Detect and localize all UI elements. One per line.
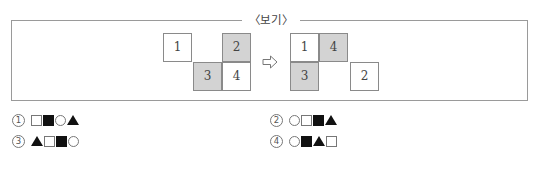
- option-4[interactable]: 4: [270, 134, 338, 148]
- circle-icon: [289, 115, 300, 126]
- triangle-icon: [67, 115, 79, 125]
- triangle-icon: [313, 136, 325, 146]
- option-number: 4: [270, 135, 283, 148]
- right-cell-2: 2: [350, 62, 379, 91]
- left-cell-1: 1: [163, 33, 192, 62]
- option-number: 1: [12, 114, 25, 127]
- right-cell-3: 3: [290, 62, 319, 91]
- left-cell-2: 2: [222, 33, 251, 62]
- empty-square-icon: [301, 115, 312, 126]
- empty-square-icon: [44, 136, 55, 147]
- triangle-icon: [31, 136, 43, 146]
- triangle-icon: [325, 115, 337, 125]
- filled-square-icon: [313, 115, 324, 126]
- empty-square-icon: [31, 115, 42, 126]
- circle-icon: [289, 136, 300, 147]
- option-number: 2: [270, 114, 283, 127]
- option-1[interactable]: 1: [12, 113, 80, 127]
- right-cell-4: 4: [319, 33, 348, 62]
- empty-square-icon: [326, 136, 337, 147]
- option-number: 3: [12, 135, 25, 148]
- filled-square-icon: [301, 136, 312, 147]
- example-box-title: 〈보기〉: [242, 12, 300, 28]
- option-2[interactable]: 2: [270, 113, 338, 127]
- filled-square-icon: [43, 115, 54, 126]
- right-arrow-icon: [262, 55, 278, 69]
- left-cell-3: 3: [193, 62, 222, 91]
- circle-icon: [68, 136, 79, 147]
- option-3[interactable]: 3: [12, 134, 80, 148]
- left-cell-4: 4: [222, 62, 251, 91]
- circle-icon: [55, 115, 66, 126]
- filled-square-icon: [56, 136, 67, 147]
- right-cell-1: 1: [290, 33, 319, 62]
